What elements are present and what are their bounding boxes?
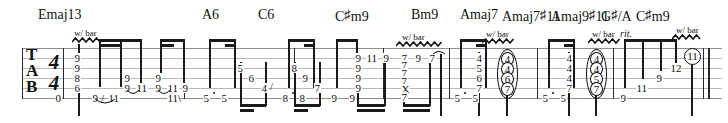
stem — [660, 39, 662, 71]
chord-symbol-gsharp-over-a: G♯/A — [601, 7, 632, 25]
slur-tie — [94, 99, 116, 107]
stem — [336, 39, 338, 88]
staccato-dot — [213, 92, 215, 94]
beam — [548, 39, 574, 42]
time-signature-denominator: 4 — [46, 73, 62, 94]
stem — [642, 39, 644, 79]
beam — [336, 39, 358, 42]
beam — [357, 109, 385, 112]
stem — [140, 39, 142, 87]
stem — [460, 39, 462, 88]
beam — [240, 104, 266, 107]
tab-note: 11 — [167, 93, 179, 103]
tab-note: 12 — [670, 63, 682, 73]
chord-symbol-amaj7: Amaj7 — [460, 7, 498, 23]
vibrato-squiggle-1 — [72, 37, 102, 44]
stem — [675, 39, 677, 63]
slur-tie — [432, 49, 446, 55]
time-signature-numerator: 4 — [46, 52, 62, 73]
staff-line-1 — [22, 48, 722, 49]
barline-8 — [703, 48, 704, 99]
tab-note: 9 — [349, 93, 356, 103]
slide-mark: / — [270, 80, 273, 92]
tab-note: 11 — [636, 83, 648, 93]
staccato-dot — [292, 92, 294, 94]
chord-voicing-oval — [497, 49, 518, 99]
tab-note: 5 — [221, 93, 228, 103]
staff-line-6 — [22, 98, 722, 99]
staff-line-3 — [22, 68, 722, 69]
tab-note: 9 — [656, 73, 663, 83]
barline-5 — [449, 48, 450, 99]
stem — [183, 39, 185, 87]
tab-note: 9 — [355, 83, 362, 93]
chord-voicing-oval — [586, 49, 607, 99]
vibrato-squiggle-5 — [672, 34, 704, 41]
tab-letter-b: B — [26, 78, 37, 95]
chord-symbol-c6: C6 — [258, 7, 274, 23]
slur-tie — [126, 90, 140, 97]
chord-symbol-emaj13: Emaj13 — [38, 7, 82, 23]
beam — [460, 39, 486, 42]
tab-clef: T A B — [26, 47, 42, 99]
beam — [403, 104, 430, 107]
tab-note: 5 — [560, 93, 567, 103]
chord-symbol-csharp-m9-2: C♯m9 — [636, 7, 670, 25]
vibrato-squiggle-4 — [588, 38, 623, 45]
tab-note: 0 — [55, 93, 62, 103]
tab-note: 5 — [237, 63, 244, 73]
beam — [288, 39, 314, 42]
tab-note: 9 — [182, 83, 189, 93]
tab-note: 9 — [383, 53, 390, 63]
tab-note: 6 — [74, 83, 81, 93]
tab-note: 8 — [299, 93, 306, 103]
barline-7 — [613, 48, 614, 99]
beam — [209, 39, 235, 42]
staccato-dot — [552, 92, 554, 94]
beam — [240, 109, 254, 112]
tab-note: 4 — [261, 83, 268, 93]
beam — [357, 104, 385, 107]
stem — [120, 39, 122, 87]
beam — [160, 39, 184, 42]
beam — [294, 104, 320, 107]
beam — [403, 109, 430, 112]
stem — [440, 54, 442, 116]
tab-note: 9 — [302, 73, 309, 83]
vibrato-squiggle-3 — [482, 38, 517, 45]
tab-note: 8 — [291, 63, 298, 73]
stem — [384, 62, 386, 106]
barline-end — [708, 48, 710, 99]
tab-note: 11 — [366, 53, 378, 63]
tab-note: 7 — [476, 83, 483, 93]
beam — [99, 44, 121, 47]
tab-note: 9 — [331, 93, 338, 103]
tempo-marking-rit: rit. — [620, 28, 632, 39]
chord-symbol-bm9: Bm9 — [411, 7, 438, 23]
stem — [485, 39, 487, 88]
chord-symbol-a6: A6 — [202, 7, 219, 23]
stem — [234, 39, 236, 88]
barline-6 — [537, 48, 538, 99]
tab-note: 7 — [566, 83, 573, 93]
beam — [160, 44, 174, 47]
barline-1 — [63, 48, 64, 99]
guitar-tab-score: T A B 4 4 Emaj13 A6 C6 C♯m9 Bm9 Amaj7 Am… — [0, 0, 728, 123]
time-signature: 4 4 — [46, 52, 62, 96]
tab-note: 5 — [542, 93, 549, 103]
tab-note: 7 — [314, 83, 321, 93]
tab-note-circled: 11 — [684, 48, 701, 65]
tab-note: 7 — [401, 92, 408, 102]
tab-note: 6 — [248, 73, 255, 83]
barline-start — [22, 48, 23, 99]
vibrato-squiggle-2 — [396, 41, 444, 48]
tab-note: 9 — [620, 93, 627, 103]
stem — [99, 39, 101, 87]
beam — [624, 39, 676, 42]
stem — [573, 39, 575, 88]
stem — [313, 39, 315, 88]
tab-note: 9 — [415, 53, 422, 63]
chord-symbol-csharp-m9-1: C♯m9 — [335, 7, 369, 25]
beam — [294, 109, 308, 112]
stem — [624, 39, 626, 88]
